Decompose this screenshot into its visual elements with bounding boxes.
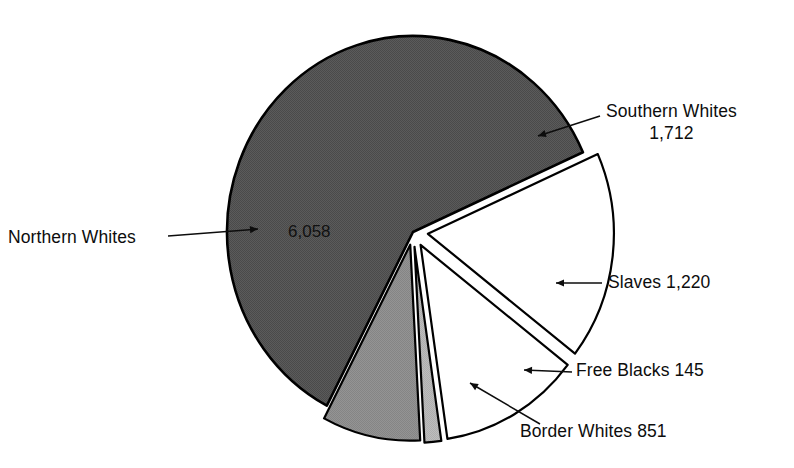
pie-slices-group bbox=[227, 36, 614, 443]
slice-label-northern-whites: Northern Whites bbox=[8, 227, 136, 249]
slice-label-free-blacks: Free Blacks 145 bbox=[576, 360, 704, 382]
slice-label-southern-whites-value: 1,712 bbox=[606, 123, 737, 145]
slice-value-northern-whites: 6,058 bbox=[288, 222, 331, 242]
slice-label-southern-whites-name: Southern Whites bbox=[606, 101, 737, 123]
slice-label-border-whites: Border Whites 851 bbox=[520, 421, 667, 443]
slice-label-slaves: Slaves 1,220 bbox=[608, 272, 710, 294]
pie-chart-figure: 6,058 Northern Whites Southern Whites 1,… bbox=[0, 0, 794, 468]
slice-label-southern-whites: Southern Whites 1,712 bbox=[606, 101, 737, 145]
